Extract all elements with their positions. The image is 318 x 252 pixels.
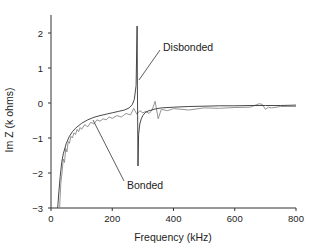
y-tick-label: −1 (32, 133, 43, 144)
x-tick-label: 600 (227, 213, 243, 224)
annotation-bonded: Bonded (127, 179, 163, 191)
x-axis-label: Frequency (kHz) (134, 231, 212, 243)
x-axis: 0200400600800 (48, 208, 304, 224)
x-tick-label: 400 (166, 213, 182, 224)
y-tick-label: −3 (32, 203, 43, 214)
x-tick-label: 200 (104, 213, 120, 224)
series-layer (58, 26, 296, 208)
annotations: DisbondedBonded (93, 41, 213, 191)
annotation-leader-line (93, 120, 124, 181)
annotation-disbonded: Disbonded (163, 41, 213, 53)
x-tick-label: 800 (288, 213, 304, 224)
y-tick-label: 1 (38, 63, 43, 74)
y-axis: 210−1−2−3 (32, 15, 51, 214)
x-tick-label: 0 (48, 213, 53, 224)
y-tick-label: 0 (38, 98, 43, 109)
annotation-leader-line (139, 50, 160, 80)
y-tick-label: 2 (38, 28, 43, 39)
series-disbonded-line (58, 26, 296, 208)
impedance-chart: 210−1−2−3 0200400600800 DisbondedBonded … (0, 0, 318, 252)
y-tick-label: −2 (32, 168, 43, 179)
y-axis-label: Im Z (k ohms) (3, 88, 15, 153)
